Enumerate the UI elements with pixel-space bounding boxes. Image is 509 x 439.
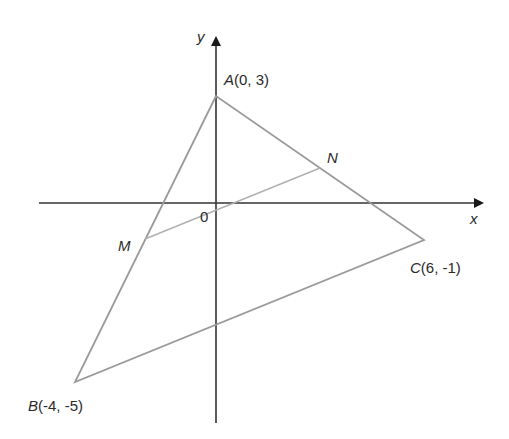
x-axis-label: x (469, 210, 478, 227)
origin-label: 0 (200, 208, 208, 225)
point-n-label: N (327, 149, 338, 166)
point-b-label: B(-4, -5) (28, 397, 83, 414)
y-axis-label: y (196, 28, 206, 45)
point-m-label: M (118, 237, 131, 254)
point-a-label: A(0, 3) (223, 71, 269, 88)
point-c-label: C(6, -1) (410, 259, 461, 276)
coordinate-diagram: y x 0 A(0, 3) B(-4, -5) C(6, -1) M N (0, 0, 509, 439)
